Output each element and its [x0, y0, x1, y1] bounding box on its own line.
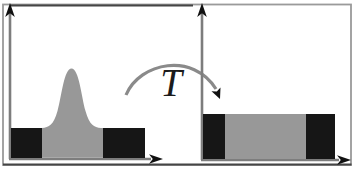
right-dark-block-high — [306, 114, 335, 159]
right-gray-block — [225, 114, 306, 159]
left-dark-block-low — [11, 128, 42, 158]
transform-label: T — [160, 61, 184, 104]
left-dark-block-high — [103, 128, 145, 158]
diagram-canvas: T — [0, 0, 357, 172]
right-dark-block-low — [203, 114, 225, 159]
figure-frame: T — [0, 0, 357, 172]
